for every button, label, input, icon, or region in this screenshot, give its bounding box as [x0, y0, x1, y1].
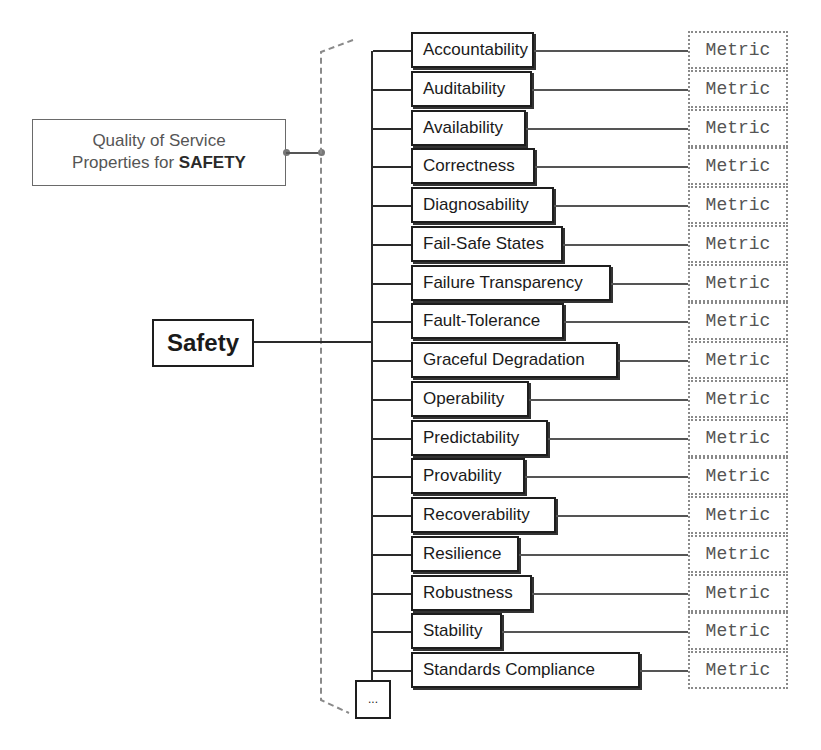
- property-node: Failure Transparency: [411, 265, 611, 301]
- metric-connector: [548, 438, 688, 440]
- metric-node: Metric: [688, 496, 788, 534]
- property-node: Graceful Degradation: [411, 342, 618, 378]
- metric-connector: [502, 631, 688, 633]
- branch-connector: [373, 593, 411, 595]
- branch-connector: [373, 360, 411, 362]
- more-properties-node: ...: [355, 680, 391, 719]
- safety-root-node: Safety: [152, 319, 254, 367]
- metric-connector: [525, 476, 688, 478]
- property-node: Operability: [411, 381, 529, 417]
- metric-node: Metric: [688, 264, 788, 302]
- metric-node: Metric: [688, 186, 788, 224]
- property-node: Correctness: [411, 148, 535, 184]
- metric-node: Metric: [688, 70, 788, 108]
- metric-node: Metric: [688, 535, 788, 573]
- metric-connector: [532, 593, 688, 595]
- metric-node: Metric: [688, 574, 788, 612]
- branch-connector: [373, 321, 411, 323]
- property-node: Stability: [411, 613, 502, 649]
- metric-connector: [556, 515, 688, 517]
- root-connector: [254, 341, 373, 343]
- branch-connector: [373, 205, 411, 207]
- metric-node: Metric: [688, 651, 788, 689]
- metric-connector: [529, 399, 688, 401]
- metric-node: Metric: [688, 457, 788, 495]
- branch-connector: [373, 50, 411, 52]
- metric-connector: [611, 283, 688, 285]
- metric-connector: [640, 670, 688, 672]
- branch-connector: [373, 515, 411, 517]
- property-node: Auditability: [411, 71, 532, 107]
- branch-connector: [373, 166, 411, 168]
- property-node: Provability: [411, 458, 525, 494]
- branch-connector: [373, 476, 411, 478]
- property-node: Fault-Tolerance: [411, 303, 564, 339]
- property-node: Standards Compliance: [411, 652, 640, 688]
- metric-node: Metric: [688, 147, 788, 185]
- branch-connector: [373, 670, 411, 672]
- metric-node: Metric: [688, 302, 788, 340]
- metric-connector: [535, 166, 688, 168]
- branch-connector: [373, 244, 411, 246]
- branch-connector: [373, 631, 411, 633]
- metric-node: Metric: [688, 225, 788, 263]
- metric-node: Metric: [688, 419, 788, 457]
- metric-connector: [532, 89, 688, 91]
- metric-connector: [618, 360, 688, 362]
- metric-node: Metric: [688, 341, 788, 379]
- branch-connector: [373, 128, 411, 130]
- property-node: Recoverability: [411, 497, 556, 533]
- metric-connector: [564, 321, 688, 323]
- property-node: Accountability: [411, 32, 534, 68]
- branch-connector: [373, 89, 411, 91]
- property-node: Robustness: [411, 575, 532, 611]
- property-node: Resilience: [411, 536, 519, 572]
- branch-connector: [373, 283, 411, 285]
- metric-node: Metric: [688, 612, 788, 650]
- property-node: Predictability: [411, 420, 548, 456]
- metric-connector: [563, 244, 688, 246]
- branch-connector: [373, 438, 411, 440]
- metric-node: Metric: [688, 380, 788, 418]
- metric-connector: [534, 50, 688, 52]
- property-node: Fail-Safe States: [411, 226, 563, 262]
- property-node: Availability: [411, 110, 526, 146]
- metric-connector: [554, 205, 688, 207]
- metric-connector: [526, 128, 688, 130]
- metric-connector: [519, 554, 688, 556]
- branch-connector: [373, 399, 411, 401]
- metric-node: Metric: [688, 31, 788, 69]
- tree-trunk: [371, 51, 373, 681]
- branch-connector: [373, 554, 411, 556]
- metric-node: Metric: [688, 109, 788, 147]
- property-node: Diagnosability: [411, 187, 554, 223]
